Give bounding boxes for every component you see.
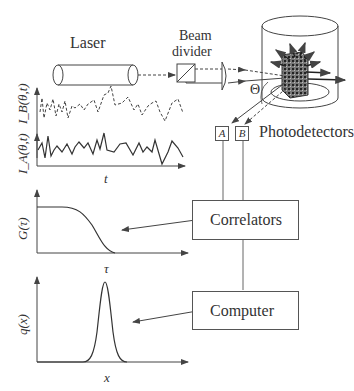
correlators-arrow <box>122 219 203 230</box>
dls-setup-diagram: Laser Beam divider Θ A B Photodetectors … <box>0 0 354 391</box>
intensity-xlabel: t <box>104 172 108 185</box>
laser-label: Laser <box>70 35 106 51</box>
intensity-b-series <box>40 86 183 121</box>
intensity-a-series <box>38 133 183 164</box>
correlation-plot <box>37 190 188 253</box>
photodetectors-label: Photodetectors <box>259 124 354 140</box>
photodetector-b: B <box>235 126 249 141</box>
distribution-plot <box>37 277 188 362</box>
beam-divider-label-1: Beam <box>179 29 212 43</box>
computer-label: Computer <box>210 303 274 319</box>
correlation-xlabel: τ <box>104 262 109 275</box>
intensity-a-ylabel: I_A(θ,t) <box>16 133 29 174</box>
photodetector-a: A <box>215 126 229 141</box>
correlators-box: Correlators <box>192 200 299 240</box>
intensity-plot <box>37 86 185 166</box>
lens-icon <box>222 62 226 90</box>
distribution-xlabel: x <box>104 371 110 384</box>
intensity-b-ylabel: I_B(θ,t) <box>16 83 29 124</box>
beam-divider-label-2: divider <box>172 45 212 59</box>
correlators-label: Correlators <box>210 212 282 228</box>
scattering-sample-icon <box>271 43 345 98</box>
theta-label: Θ <box>250 83 260 97</box>
distribution-ylabel: q(x) <box>16 314 29 335</box>
computer-box: Computer <box>192 291 299 330</box>
laser-icon <box>53 65 138 85</box>
beam-divider-icon <box>177 64 195 82</box>
correlation-ylabel: G(τ) <box>16 217 29 240</box>
